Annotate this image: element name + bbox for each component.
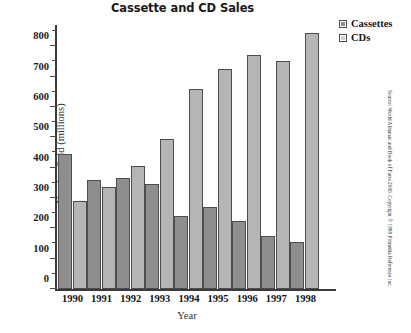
y-axis-tick-minor [52, 151, 56, 152]
x-axis-tick-label: 1992 [120, 293, 141, 304]
y-axis-tick-major [50, 197, 56, 198]
plot-area: Number Sold (millions) 01002003004005006… [56, 28, 318, 289]
bar-cds-1994 [189, 89, 203, 289]
x-axis-tick-label: 1993 [149, 293, 170, 304]
bar-group [116, 28, 143, 289]
y-axis-tick-major [50, 136, 56, 137]
bar-cds-1992 [131, 166, 145, 289]
bar-cassettes-1997 [261, 236, 275, 289]
legend-swatch-cassettes-icon [339, 20, 347, 28]
x-axis-title: Year [56, 310, 318, 321]
y-axis-tick-label: 500 [33, 121, 49, 132]
x-axis-tick-label: 1996 [237, 293, 258, 304]
y-axis-tick-minor [52, 273, 56, 274]
y-axis-tick-major [50, 167, 56, 168]
y-axis-tick-label: 400 [33, 151, 49, 162]
bar-group [58, 28, 85, 289]
y-axis-tick-label: 0 [44, 273, 49, 284]
y-axis-tick-minor [52, 91, 56, 92]
x-axis-tick-label: 1995 [208, 293, 229, 304]
x-axis-tick-label: 1994 [178, 293, 199, 304]
bar-cassettes-1991 [87, 180, 101, 289]
y-axis-tick-minor [52, 182, 56, 183]
bar-cds-1997 [276, 61, 290, 289]
legend-label-cassettes: Cassettes [351, 18, 392, 29]
bar-cds-1998 [305, 33, 319, 289]
bar-group [87, 28, 114, 289]
y-axis-tick-major [50, 45, 56, 46]
y-axis-tick-major [50, 76, 56, 77]
bar-cds-1993 [160, 139, 174, 289]
y-axis-tick-label: 600 [33, 90, 49, 101]
legend-swatch-cds-icon [339, 34, 347, 42]
chart-title: Cassette and CD Sales [0, 1, 365, 15]
y-axis-tick-minor [52, 30, 56, 31]
bar-cassettes-1992 [116, 178, 130, 289]
legend-item-cds: CDs [339, 31, 392, 44]
y-axis-tick-label: 200 [33, 212, 49, 223]
bar-cassettes-1990 [58, 154, 72, 289]
y-axis-tick-major [50, 288, 56, 289]
y-axis-tick-major [50, 258, 56, 259]
legend-label-cds: CDs [351, 32, 370, 43]
bar-cassettes-1993 [145, 184, 159, 289]
bar-cassettes-1998 [290, 242, 304, 289]
y-axis-tick-label: 300 [33, 181, 49, 192]
y-axis-tick-minor [52, 242, 56, 243]
y-axis-tick-minor [52, 60, 56, 61]
bar-group [203, 28, 230, 289]
bar-cds-1996 [247, 55, 261, 289]
legend-item-cassettes: Cassettes [339, 17, 392, 30]
bar-group [232, 28, 259, 289]
x-axis-tick-label: 1990 [62, 293, 83, 304]
bar-cds-1991 [102, 187, 116, 289]
y-axis-tick-major [50, 227, 56, 228]
bar-group [261, 28, 288, 289]
y-axis-tick-minor [52, 121, 56, 122]
source-note: Source: World Almanac and Book of Facts … [387, 90, 393, 287]
bar-group [174, 28, 201, 289]
x-axis-line [55, 289, 336, 291]
chart-legend: Cassettes CDs [339, 17, 392, 45]
bar-cassettes-1996 [232, 221, 246, 289]
y-axis-tick-label: 700 [33, 60, 49, 71]
bar-cassettes-1995 [203, 207, 217, 289]
y-axis-tick-label: 100 [33, 242, 49, 253]
bar-cassettes-1994 [174, 216, 188, 289]
y-axis-tick-label: 800 [33, 30, 49, 41]
x-axis-tick-label: 1997 [266, 293, 287, 304]
y-axis-tick-minor [52, 212, 56, 213]
bar-group [290, 28, 317, 289]
x-axis-tick-label: 1991 [91, 293, 112, 304]
bar-group [145, 28, 172, 289]
chart-figure: Cassette and CD Sales Number Sold (milli… [0, 0, 411, 333]
bar-cds-1995 [218, 69, 232, 289]
x-axis-tick-label: 1998 [295, 293, 316, 304]
y-axis-tick-major [50, 106, 56, 107]
bar-cds-1990 [73, 201, 87, 289]
